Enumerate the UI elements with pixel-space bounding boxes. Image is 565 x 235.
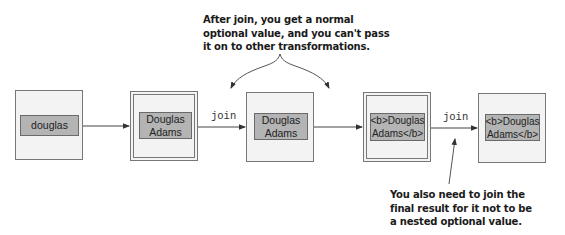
optional-box-douglas: douglas [15,90,83,160]
value-douglas-adams-joined: Douglas Adams [254,113,308,140]
annotation-bottom: You also need to join the final result f… [390,188,532,229]
value-douglas: douglas [20,115,79,136]
diagram-canvas: douglas Douglas Adams join Douglas Adams… [0,0,565,235]
nested-optional-box-douglas-adams: Douglas Adams [130,91,198,161]
value-bold-douglas-adams-final: <b>Douglas Adams</b> [485,114,540,141]
optional-box-bold-douglas-adams: <b>Douglas Adams</b> [478,93,546,163]
annotation-top: After join, you get a normal optional va… [203,13,389,54]
value-bold-douglas-adams: <b>Douglas Adams</b> [370,113,425,141]
brace-arrow-left [231,54,280,88]
join-label-2: join [443,111,468,123]
nested-optional-box-bold-douglas-adams: <b>Douglas Adams</b> [363,92,431,162]
annotation-pointer-arrow [449,139,455,184]
brace-arrow-right [280,54,329,88]
optional-box-douglas-adams: Douglas Adams [246,92,314,162]
join-label-1: join [211,110,236,122]
value-douglas-adams: Douglas Adams [139,112,192,139]
